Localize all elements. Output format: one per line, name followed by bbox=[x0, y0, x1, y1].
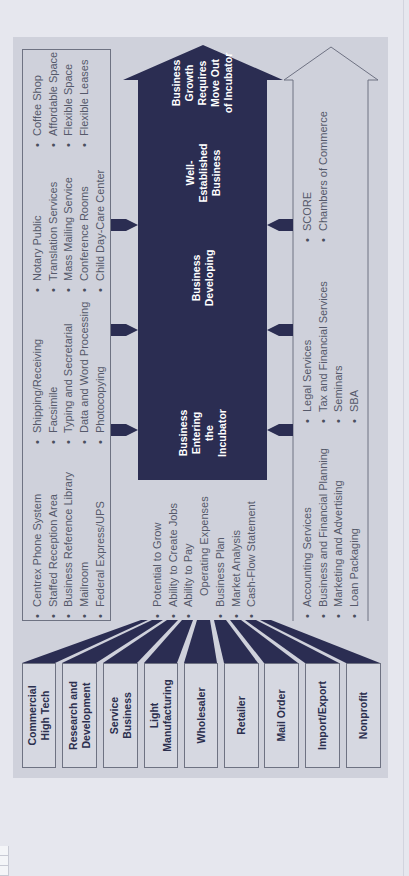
page-edge-line bbox=[403, 0, 404, 876]
shared-services-col4: Coffee Shop Affordable Space Flexible Sp… bbox=[30, 52, 93, 147]
category-import-export: Import/Export bbox=[305, 663, 340, 768]
corner-grid-fragment bbox=[0, 846, 9, 876]
professional-services-col1: Accounting Services Business and Financi… bbox=[300, 448, 363, 618]
shared-services-col1: Centrex Phone System Staffed Reception A… bbox=[30, 472, 109, 618]
shared-services-col2: Shipping/Receiving Facsimile Typing and … bbox=[30, 302, 109, 444]
category-research-development: Research andDevelopment bbox=[62, 663, 97, 768]
shared-service-arrows bbox=[111, 219, 138, 436]
stage-well-established: Well- Established Business bbox=[184, 133, 223, 213]
incubator-diagram: CommercialHigh Tech Research andDevelopm… bbox=[13, 37, 388, 778]
category-mail-order: Mail Order bbox=[264, 663, 299, 768]
category-service-business: ServiceBusiness bbox=[103, 663, 138, 768]
stage-move-out: Business Growth Requires Move Out of Inc… bbox=[170, 43, 235, 123]
professional-services-col2: Legal Services Tax and Financial Service… bbox=[300, 281, 363, 423]
category-light-manufacturing: LightManufacturing bbox=[144, 663, 178, 768]
professional-services-col3: SCORE Chambers of Commerce bbox=[300, 111, 331, 242]
stage-entering-incubator: Business Entering the Incubator bbox=[177, 398, 229, 468]
professional-service-arrows bbox=[267, 219, 293, 436]
entry-criteria-list: Potential to Grow Ability to Create Jobs… bbox=[150, 496, 260, 618]
fan-wedges bbox=[22, 620, 380, 663]
category-nonprofit: Nonprofit bbox=[346, 663, 381, 768]
shared-services-col3: Notary Public Translation Services Mass … bbox=[30, 170, 109, 292]
category-wholesaler: Wholesaler bbox=[184, 663, 218, 768]
category-commercial-high-tech: CommercialHigh Tech bbox=[22, 663, 56, 768]
stage-developing: Business Developing bbox=[190, 238, 216, 318]
category-retailer: Retailer bbox=[224, 663, 259, 768]
